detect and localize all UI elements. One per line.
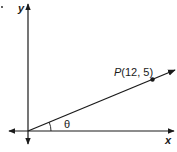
x-axis-label: x	[164, 134, 172, 146]
angle-arc	[49, 122, 51, 131]
point-p-label: P(12, 5)	[114, 66, 153, 78]
y-axis-label: y	[17, 2, 25, 14]
angle-theta-label: θ	[64, 118, 70, 130]
coordinate-diagram: y x P(12, 5) θ	[0, 0, 177, 152]
stray-dot	[1, 6, 3, 8]
point-p-coords: (12, 5)	[121, 66, 153, 78]
